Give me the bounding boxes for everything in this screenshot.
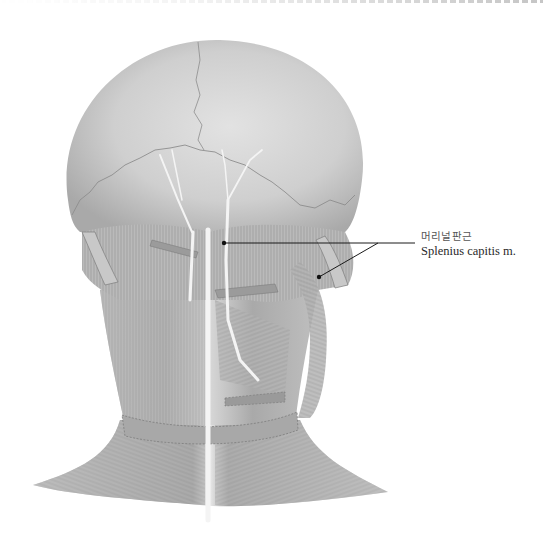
pointer-dot	[222, 241, 226, 245]
skull	[67, 40, 364, 232]
label-english: Splenius capitis m.	[421, 244, 516, 259]
anatomy-illustration	[0, 0, 543, 535]
label-korean: 머리널판근	[421, 229, 516, 244]
pointer-dot	[317, 275, 321, 279]
splenius-capitis-label: 머리널판근 Splenius capitis m.	[421, 229, 516, 259]
